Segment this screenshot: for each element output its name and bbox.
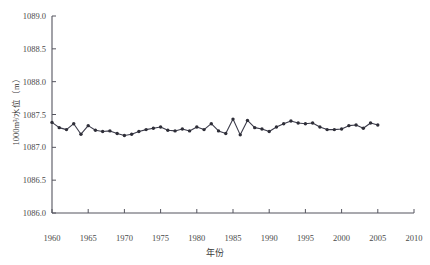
x-tick-label: 1960 xyxy=(32,233,72,243)
x-tick-label: 2000 xyxy=(322,233,362,243)
y-tick-label: 1086.0 xyxy=(2,208,46,218)
x-tick-label: 1995 xyxy=(285,233,325,243)
y-tick-label: 1087.0 xyxy=(2,142,46,152)
x-axis-title: 年份 xyxy=(0,246,430,259)
y-tick-label: 1089.0 xyxy=(2,11,46,21)
x-tick-label: 1970 xyxy=(104,233,144,243)
plot-area xyxy=(0,0,430,265)
y-tick-label: 1088.5 xyxy=(2,44,46,54)
y-tick-label: 1088.0 xyxy=(2,77,46,87)
x-tick-label: 1975 xyxy=(141,233,181,243)
x-tick-label: 1985 xyxy=(213,233,253,243)
x-tick-label: 1990 xyxy=(249,233,289,243)
chart-container: 1000m³/水位（m） 1086.01086.51087.01087.5108… xyxy=(0,0,430,265)
x-tick-label: 2005 xyxy=(358,233,398,243)
x-tick-label: 2010 xyxy=(394,233,430,243)
y-tick-label: 1086.5 xyxy=(2,175,46,185)
x-tick-label: 1965 xyxy=(68,233,108,243)
x-tick-label: 1980 xyxy=(177,233,217,243)
y-tick-label: 1087.5 xyxy=(2,110,46,120)
